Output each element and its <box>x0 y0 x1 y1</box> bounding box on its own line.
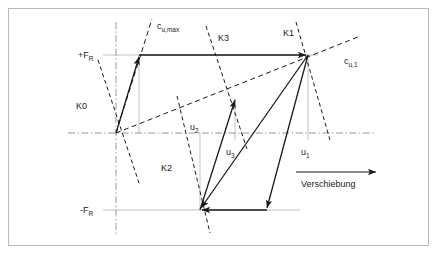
label-cu-1: cu,1 <box>344 56 358 68</box>
label-K3: K3 <box>218 33 229 43</box>
envelope-lines <box>116 19 358 133</box>
figure-canvas: +FR -FR cu,max cu,1 K0 K1 K2 K3 <box>0 0 439 256</box>
force-level-guides <box>103 55 318 210</box>
label-K1: K1 <box>283 28 294 38</box>
label-positive-yield-force: +FR <box>78 50 94 62</box>
axes <box>68 22 376 236</box>
label-u2: u2 <box>190 122 199 134</box>
label-x-axis-verschiebung: Verschiebung <box>301 179 356 189</box>
path-loading-branch-positive <box>116 57 139 133</box>
label-negative-yield-force: -FR <box>80 205 94 217</box>
stiffness-lines <box>98 22 330 233</box>
label-K2: K2 <box>161 163 172 173</box>
label-u3: u3 <box>226 147 235 159</box>
diagram-labels: +FR -FR cu,max cu,1 K0 K1 K2 K3 <box>76 21 358 217</box>
stiffness-line-K3 <box>206 26 247 149</box>
envelope-line-cu-1 <box>116 37 358 133</box>
label-K0: K0 <box>76 101 87 111</box>
hysteresis-diagram: +FR -FR cu,max cu,1 K0 K1 K2 K3 <box>0 0 439 256</box>
stiffness-line-K2 <box>177 96 210 233</box>
displacement-guides <box>139 55 308 210</box>
hysteresis-path <box>116 55 308 210</box>
label-cu-max: cu,max <box>157 21 180 33</box>
label-u1: u1 <box>301 147 310 159</box>
